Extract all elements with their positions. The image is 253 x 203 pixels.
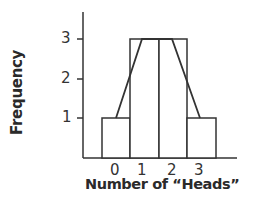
- histogram-chart: [0, 0, 253, 203]
- bar-2: [159, 39, 187, 158]
- y-tick-label-1: 1: [62, 108, 72, 126]
- bar-3: [187, 118, 216, 158]
- bar-0: [102, 118, 130, 158]
- y-axis-label: Frequency: [8, 50, 26, 135]
- x-axis-label: Number of “Heads”: [85, 176, 253, 192]
- bar-1: [130, 39, 159, 158]
- y-tick-label-2: 2: [61, 69, 71, 87]
- y-tick-label-3: 3: [61, 29, 71, 47]
